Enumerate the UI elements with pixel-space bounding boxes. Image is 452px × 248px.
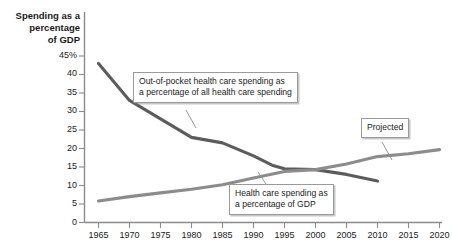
y-tick-label-10: 10 bbox=[45, 181, 77, 190]
y-tick-label-15: 15 bbox=[45, 162, 77, 171]
x-axis-ticks bbox=[99, 223, 440, 229]
annotation-health-care-gdp-line-1: Health care spending as bbox=[235, 188, 328, 199]
annotation-health-care-gdp-line-2: a percentage of GDP bbox=[235, 199, 328, 210]
chart-container: Spending as a percentage of GDP bbox=[0, 0, 452, 248]
annotation-projected: Projected bbox=[361, 118, 409, 138]
y-axis-ticks bbox=[79, 56, 85, 223]
y-tick-label-20: 20 bbox=[45, 144, 77, 153]
annotation-projected-line-1: Projected bbox=[367, 122, 403, 133]
x-tick-label-2020: 2020 bbox=[420, 231, 452, 240]
annotation-out-of-pocket-line-1: Out-of-pocket health care spending as bbox=[139, 76, 292, 87]
leader-line-out-of-pocket bbox=[186, 110, 196, 128]
y-tick-label-45: 45% bbox=[45, 51, 77, 60]
y-tick-label-5: 5 bbox=[45, 199, 77, 208]
annotation-out-of-pocket: Out-of-pocket health care spending as a … bbox=[133, 72, 298, 103]
annotation-health-care-gdp: Health care spending as a percentage of … bbox=[229, 184, 334, 215]
y-tick-label-25: 25 bbox=[45, 125, 77, 134]
annotation-out-of-pocket-line-2: a percentage of all health care spending bbox=[139, 87, 292, 98]
y-tick-label-30: 30 bbox=[45, 106, 77, 115]
y-tick-label-35: 35 bbox=[45, 88, 77, 97]
y-tick-label-0: 0 bbox=[45, 218, 77, 227]
y-tick-label-40: 40 bbox=[45, 69, 77, 78]
